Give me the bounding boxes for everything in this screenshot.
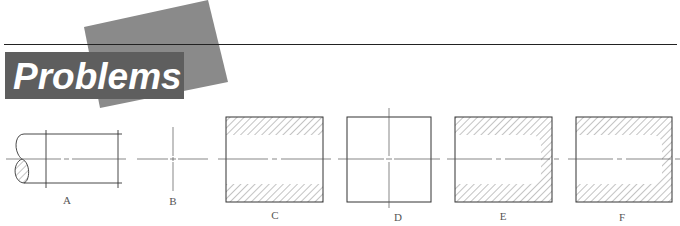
figure-d	[338, 108, 440, 208]
figure-f	[568, 117, 680, 202]
figure-e	[447, 117, 560, 202]
header: Problems	[4, 0, 677, 108]
figure-label-f: F	[619, 211, 625, 223]
page-title: Problems	[13, 56, 182, 97]
figure-label-e: E	[500, 210, 507, 222]
figure-label-a: A	[63, 194, 71, 206]
figure-a	[6, 130, 126, 188]
figure-b	[137, 127, 208, 191]
break-symbol	[15, 159, 29, 183]
figure-c	[218, 117, 332, 202]
figure-label-c: C	[271, 209, 278, 221]
figure-label-b: B	[169, 195, 176, 207]
problems-figure: Problems	[0, 0, 680, 226]
figure-label-d: D	[394, 211, 402, 223]
